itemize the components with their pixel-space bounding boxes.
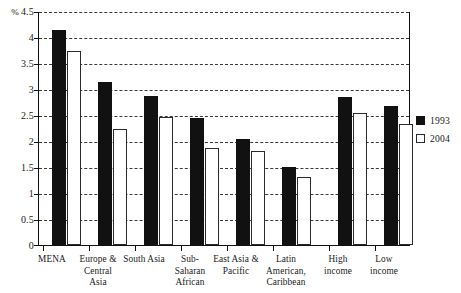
plot-area	[38, 12, 410, 246]
y-tick-label-0.5: 0.5	[21, 215, 34, 225]
bar-high-income-1993[interactable]	[338, 97, 352, 245]
bar-group-high-income	[338, 12, 367, 245]
bar-mena-2004[interactable]	[67, 51, 81, 245]
x-tick-mark-4	[227, 246, 228, 251]
y-tick-label-4.5: %4.5	[11, 7, 34, 17]
y-tick-label-1.5: 1.5	[21, 163, 34, 173]
bar-group-europe-central-asia	[98, 12, 127, 245]
x-label-europe-central-asia: Europe & Central Asia	[75, 254, 121, 289]
bar-mena-1993[interactable]	[52, 30, 66, 245]
x-tick-mark-7	[375, 246, 376, 251]
y-tick-label-2.5: 2.5	[21, 111, 34, 121]
bar-high-income-2004[interactable]	[353, 113, 367, 245]
y-tick-label-3.5: 3.5	[21, 59, 34, 69]
x-tick-mark-0	[43, 246, 44, 251]
bar-europe-central-asia-1993[interactable]	[98, 82, 112, 245]
bar-group-south-asia	[144, 12, 173, 245]
bar-latin-american-caribbean-2004[interactable]	[297, 177, 311, 245]
legend-item-2004[interactable]: 2004	[416, 131, 461, 146]
x-label-mena: MENA	[29, 254, 75, 266]
x-label-high-income: High income	[315, 254, 361, 277]
legend: 1993 2004	[416, 113, 461, 149]
x-axis-labels: MENA Europe & Central Asia South Asia Su…	[0, 254, 461, 293]
bar-group-east-asia-pacific	[236, 12, 265, 245]
y-axis-labels: %4.5 4 3.5 3 2.5 2 1.5 1 0.5 0	[0, 0, 36, 293]
y-tick-text: 4.5	[21, 6, 34, 17]
bars-layer	[39, 12, 409, 245]
x-tick-mark-3	[181, 246, 182, 251]
bar-east-asia-pacific-2004[interactable]	[251, 151, 265, 245]
x-tick-mark-6	[329, 246, 330, 251]
bar-group-sub-saharan-african	[190, 12, 219, 245]
bar-group-low-income	[384, 12, 413, 245]
bar-latin-american-caribbean-1993[interactable]	[282, 167, 296, 245]
bar-chart: %4.5 4 3.5 3 2.5 2 1.5 1 0.5 0	[0, 0, 461, 293]
legend-item-1993[interactable]: 1993	[416, 113, 461, 128]
y-tick-mark-0	[34, 245, 39, 246]
open-square-icon	[416, 134, 425, 143]
x-label-east-asia-pacific: East Asia & Pacific	[213, 254, 259, 277]
bar-group-mena	[52, 12, 81, 245]
bar-east-asia-pacific-1993[interactable]	[236, 139, 250, 245]
bar-south-asia-2004[interactable]	[159, 117, 173, 245]
x-label-sub-saharan-african: Sub-Saharan African	[167, 254, 213, 289]
legend-label-1993: 1993	[430, 116, 450, 126]
bar-south-asia-1993[interactable]	[144, 96, 158, 245]
x-label-low-income: Low income	[361, 254, 407, 277]
y-tick-label-0: 0	[29, 241, 34, 251]
bar-sub-saharan-african-1993[interactable]	[190, 118, 204, 245]
x-tick-mark-1	[89, 246, 90, 251]
y-axis-unit: %	[11, 7, 19, 17]
bar-europe-central-asia-2004[interactable]	[113, 129, 127, 246]
x-tick-mark-2	[135, 246, 136, 251]
x-label-south-asia: South Asia	[121, 254, 167, 266]
filled-square-icon	[416, 116, 425, 125]
bar-sub-saharan-african-2004[interactable]	[205, 148, 219, 245]
bar-low-income-1993[interactable]	[384, 106, 398, 245]
bar-group-latin-american-caribbean	[282, 12, 311, 245]
legend-label-2004: 2004	[430, 134, 450, 144]
bar-low-income-2004[interactable]	[399, 124, 413, 245]
x-tick-mark-5	[273, 246, 274, 251]
x-label-latin-american-caribbean: Latin American, Caribbean	[257, 254, 315, 289]
